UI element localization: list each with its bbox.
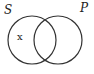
set-p-label: P [79, 1, 89, 15]
set-s-label: S [4, 3, 12, 17]
region-mark-s-only: x [17, 31, 23, 42]
set-p-circle [34, 16, 82, 64]
venn-diagram: S P x [0, 0, 94, 74]
set-s-circle [8, 16, 56, 64]
